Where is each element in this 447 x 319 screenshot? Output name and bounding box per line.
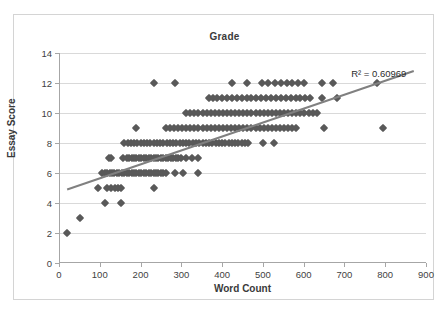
x-tick xyxy=(426,263,427,267)
data-point xyxy=(131,124,139,132)
data-point xyxy=(100,199,108,207)
data-point xyxy=(270,139,278,147)
y-tick-label: 10 xyxy=(41,108,52,119)
x-axis-title: Word Count xyxy=(59,283,426,294)
data-point xyxy=(320,124,328,132)
x-tick xyxy=(100,263,101,267)
x-tick-label: 200 xyxy=(133,269,149,280)
data-point xyxy=(306,94,314,102)
data-point xyxy=(193,154,201,162)
data-point xyxy=(379,124,387,132)
data-point xyxy=(243,79,251,87)
gridline xyxy=(59,203,426,204)
data-point xyxy=(329,79,337,87)
x-tick-label: 500 xyxy=(255,269,271,280)
data-point xyxy=(194,169,202,177)
data-point xyxy=(117,199,125,207)
y-axis-line xyxy=(59,53,60,263)
data-point xyxy=(299,79,307,87)
data-point xyxy=(171,79,179,87)
x-tick xyxy=(344,263,345,267)
x-tick xyxy=(385,263,386,267)
x-tick-label: 0 xyxy=(56,269,61,280)
y-tick-label: 2 xyxy=(47,228,52,239)
y-tick-label: 8 xyxy=(47,138,52,149)
chart-title: Grade xyxy=(14,31,435,42)
data-point xyxy=(292,124,300,132)
data-point xyxy=(373,79,381,87)
y-axis-title: Essay Score xyxy=(6,99,17,159)
x-tick-label: 800 xyxy=(377,269,393,280)
y-tick-label: 6 xyxy=(47,168,52,179)
y-tick-label: 4 xyxy=(47,198,52,209)
chart-frame: Grade Essay Score Word Count 02468101214… xyxy=(13,14,434,300)
y-tick-label: 12 xyxy=(41,78,52,89)
x-tick xyxy=(222,263,223,267)
x-tick xyxy=(141,263,142,267)
data-point xyxy=(149,184,157,192)
data-point xyxy=(76,214,84,222)
x-tick-label: 300 xyxy=(173,269,189,280)
gridline xyxy=(59,233,426,234)
x-tick-label: 400 xyxy=(214,269,230,280)
data-point xyxy=(318,94,326,102)
data-point xyxy=(149,79,157,87)
gridline xyxy=(59,53,426,54)
x-tick-label: 700 xyxy=(337,269,353,280)
x-tick-label: 600 xyxy=(296,269,312,280)
r-squared-annotation: R² = 0.60969 xyxy=(351,68,406,79)
data-point xyxy=(333,94,341,102)
x-axis-line xyxy=(59,262,426,263)
plot-area: 02468101214 0100200300400500600700800900… xyxy=(59,53,426,263)
x-tick-label: 100 xyxy=(92,269,108,280)
x-tick xyxy=(304,263,305,267)
data-point xyxy=(259,139,267,147)
x-tick xyxy=(59,263,60,267)
data-point xyxy=(179,169,187,177)
data-point xyxy=(318,79,326,87)
x-tick xyxy=(263,263,264,267)
y-tick-label: 14 xyxy=(41,48,52,59)
y-tick-label: 0 xyxy=(47,258,52,269)
data-point xyxy=(63,229,71,237)
x-tick xyxy=(181,263,182,267)
x-tick-label: 900 xyxy=(418,269,434,280)
data-point xyxy=(93,184,101,192)
data-point xyxy=(228,79,236,87)
